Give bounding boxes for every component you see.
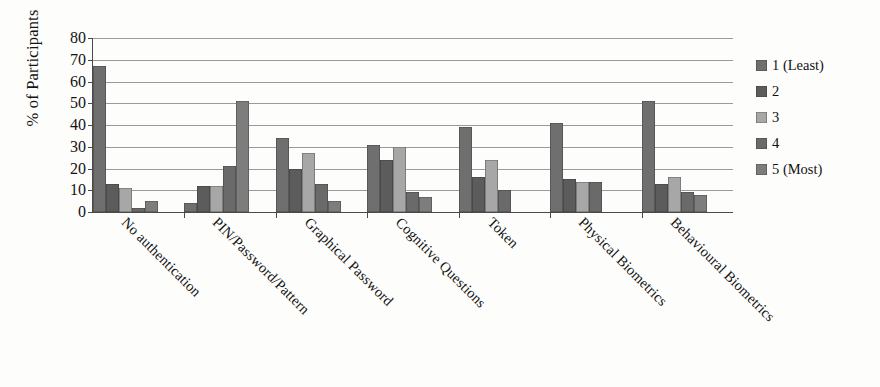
bar[interactable] — [236, 101, 249, 212]
legend-item[interactable]: 5 (Most) — [756, 156, 876, 182]
x-axis-category-label: Physical Biometrics — [575, 214, 671, 310]
bar[interactable] — [276, 138, 289, 212]
bar[interactable] — [498, 190, 511, 212]
bar-group — [550, 38, 641, 212]
bar[interactable] — [197, 186, 210, 212]
bar[interactable] — [393, 147, 406, 212]
plot-area — [92, 38, 733, 213]
legend-item-label: 1 (Least) — [772, 57, 824, 74]
bar[interactable] — [367, 145, 380, 212]
bar[interactable] — [289, 169, 302, 213]
x-axis-category-label: Graphical Password — [301, 214, 397, 310]
bar[interactable] — [485, 160, 498, 212]
x-axis-category-label: Token — [484, 214, 522, 252]
bar-group — [459, 38, 550, 212]
legend-item-label: 5 (Most) — [772, 161, 822, 178]
x-axis-category-label: No authentication — [118, 214, 204, 300]
bar[interactable] — [668, 177, 681, 212]
bar[interactable] — [106, 184, 119, 212]
legend-color-swatch — [756, 60, 767, 71]
bar[interactable] — [315, 184, 328, 212]
bar[interactable] — [472, 177, 485, 212]
bar[interactable] — [223, 166, 236, 212]
y-axis-tick-label: 80 — [42, 30, 86, 46]
y-axis-tick-label: 0 — [42, 204, 86, 220]
legend-item-label: 4 — [772, 135, 779, 152]
x-axis-category-label: PIN/Password/Pattern — [209, 214, 313, 318]
bar[interactable] — [576, 182, 589, 212]
legend-item-label: 2 — [772, 83, 779, 100]
bar[interactable] — [681, 192, 694, 212]
bar[interactable] — [132, 208, 145, 212]
y-axis-tick-label: 10 — [42, 182, 86, 198]
bar-chart-figure: % of Participants 80706050403020100 No a… — [0, 0, 880, 387]
legend-item[interactable]: 4 — [756, 130, 876, 156]
bar[interactable] — [694, 195, 707, 212]
legend-item[interactable]: 3 — [756, 104, 876, 130]
legend-item-label: 3 — [772, 109, 779, 126]
bar-groups — [93, 38, 733, 212]
bar[interactable] — [550, 123, 563, 212]
bar[interactable] — [563, 179, 576, 212]
bar[interactable] — [93, 66, 106, 212]
bar[interactable] — [380, 160, 393, 212]
bar[interactable] — [328, 201, 341, 212]
bar-group — [642, 38, 733, 212]
y-axis-tick-labels: 80706050403020100 — [42, 30, 86, 220]
y-axis-tick-label: 70 — [42, 52, 86, 68]
y-axis-tick-label: 40 — [42, 117, 86, 133]
bar[interactable] — [419, 197, 432, 212]
y-axis-tick-label: 20 — [42, 161, 86, 177]
legend-color-swatch — [756, 164, 767, 175]
y-axis-tick-label: 50 — [42, 95, 86, 111]
y-axis-tick-mark — [88, 212, 93, 213]
chart-legend: 1 (Least)2345 (Most) — [756, 52, 876, 182]
bar[interactable] — [406, 192, 419, 212]
x-axis-category-labels: No authenticationPIN/Password/PatternGra… — [92, 214, 732, 364]
legend-item[interactable]: 2 — [756, 78, 876, 104]
y-axis-tick-label: 60 — [42, 74, 86, 90]
bar[interactable] — [184, 203, 197, 212]
legend-color-swatch — [756, 138, 767, 149]
bar[interactable] — [145, 201, 158, 212]
x-axis-category-label: Behavioural Biometrics — [667, 214, 778, 325]
legend-item[interactable]: 1 (Least) — [756, 52, 876, 78]
bar[interactable] — [655, 184, 668, 212]
y-axis-title: % of Participants — [23, 0, 43, 163]
bar[interactable] — [210, 186, 223, 212]
bar[interactable] — [119, 188, 132, 212]
bar[interactable] — [302, 153, 315, 212]
bar-group — [367, 38, 458, 212]
bar-group — [93, 38, 184, 212]
bar[interactable] — [642, 101, 655, 212]
x-axis-category-label: Cognitive Questions — [392, 214, 489, 311]
legend-color-swatch — [756, 86, 767, 97]
bar-group — [276, 38, 367, 212]
legend-color-swatch — [756, 112, 767, 123]
bar[interactable] — [459, 127, 472, 212]
bar-group — [184, 38, 275, 212]
bar[interactable] — [589, 182, 602, 212]
y-axis-tick-label: 30 — [42, 139, 86, 155]
